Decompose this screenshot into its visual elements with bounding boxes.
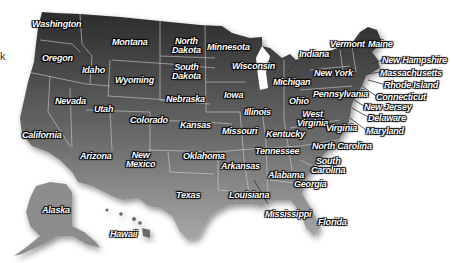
state-label-new-jersey: New Jersey xyxy=(364,103,412,112)
state-label-missouri: Missouri xyxy=(222,127,257,136)
state-label-south-dakota: SouthDakota xyxy=(172,63,201,81)
state-label-mississippi: Mississippi xyxy=(265,210,311,219)
state-label-california: California xyxy=(22,131,62,140)
state-label-arizona: Arizona xyxy=(80,152,112,161)
state-label-colorado: Colorado xyxy=(130,116,168,125)
state-label-south-carolina: SouthCarolina xyxy=(311,157,345,175)
state-label-wisconsin: Wisconsin xyxy=(232,62,275,71)
state-label-west-virginia: WestVirginia xyxy=(297,110,328,128)
state-label-vermont: Vermont xyxy=(330,40,365,49)
state-label-georgia: Georgia xyxy=(294,180,327,189)
state-label-iowa: Iowa xyxy=(224,91,243,100)
state-label-maryland: Maryland xyxy=(366,127,404,136)
state-label-massachusetts: Massachusetts xyxy=(380,69,442,78)
state-label-washington: Washington xyxy=(32,20,81,29)
state-label-new-york: New York xyxy=(314,69,353,78)
state-label-florida: Florida xyxy=(318,218,347,227)
state-label-wyoming: Wyoming xyxy=(115,76,154,85)
state-label-nevada: Nevada xyxy=(55,97,86,106)
state-label-connecticut: Connecticut xyxy=(376,93,426,102)
state-label-delaware: Delaware xyxy=(368,114,406,123)
state-label-kentucky: Kentucky xyxy=(266,130,305,139)
state-label-nebraska: Nebraska xyxy=(166,95,205,104)
state-label-ohio: Ohio xyxy=(289,97,309,106)
edge-fragment-text: k xyxy=(0,50,6,62)
state-label-idaho: Idaho xyxy=(82,66,105,75)
state-label-louisiana: Louisiana xyxy=(229,191,269,200)
state-label-new-hampshire: New Hampshire xyxy=(382,56,447,65)
state-label-utah: Utah xyxy=(94,105,113,114)
state-label-indiana: Indiana xyxy=(299,50,329,59)
state-label-rhode-island: Rhode Island xyxy=(384,81,438,90)
state-label-oregon: Oregon xyxy=(42,54,73,63)
state-label-oklahoma: Oklahoma xyxy=(183,152,225,161)
state-label-arkansas: Arkansas xyxy=(221,162,260,171)
state-label-tennessee: Tennessee xyxy=(255,147,299,156)
state-label-alaska: Alaska xyxy=(42,206,70,215)
state-label-michigan: Michigan xyxy=(273,78,310,87)
alaska-shape xyxy=(14,182,100,256)
state-label-montana: Montana xyxy=(112,38,148,47)
state-label-virginia: Virginia xyxy=(326,124,357,133)
state-label-illinois: Illinois xyxy=(244,108,271,117)
state-label-new-mexico: NewMexico xyxy=(126,151,155,169)
state-label-north-carolina: North Carolina xyxy=(312,142,372,151)
state-label-maine: Maine xyxy=(368,40,393,49)
state-label-minnesota: Minnesota xyxy=(207,43,250,52)
state-label-pennsylvania: Pennsylvania xyxy=(313,90,368,99)
state-label-north-dakota: NorthDakota xyxy=(172,37,201,55)
state-label-kansas: Kansas xyxy=(180,121,211,130)
state-label-hawaii: Hawaii xyxy=(110,230,137,239)
state-label-texas: Texas xyxy=(176,191,200,200)
